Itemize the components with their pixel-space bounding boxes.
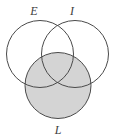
venn-diagram-figure: E I L: [0, 0, 117, 139]
set-label-l: L: [54, 123, 62, 137]
set-label-e: E: [29, 4, 38, 18]
venn-diagram-canvas: E I L: [0, 0, 117, 139]
